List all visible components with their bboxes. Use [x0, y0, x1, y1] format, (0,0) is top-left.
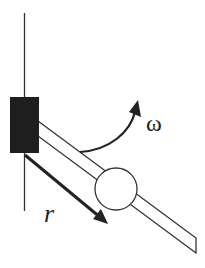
r-label: r: [44, 199, 55, 228]
diagram-canvas: ω r: [0, 0, 205, 268]
angular-velocity-arrow: [80, 100, 141, 152]
pivot-block: [10, 97, 39, 153]
omega-label: ω: [146, 110, 162, 136]
bead: [95, 168, 137, 210]
